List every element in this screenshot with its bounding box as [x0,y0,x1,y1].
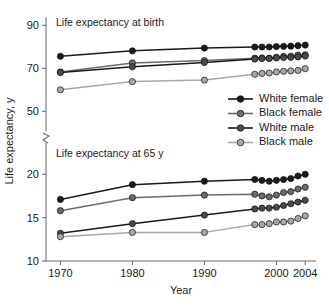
data-point [129,64,135,70]
legend-marker [237,139,244,146]
data-point [252,221,258,227]
data-point [57,87,63,93]
data-point [302,184,308,190]
data-point [201,229,207,235]
y-axis-title: Life expectancy, y [3,97,15,185]
data-point [129,221,135,227]
y-tick-label-at65-0: 10 [27,255,39,267]
x-tick-label-3: 2000 [264,267,288,279]
data-point [57,196,63,202]
data-point [201,192,207,198]
x-tick-label-0: 1970 [48,267,72,279]
data-point [201,45,207,51]
data-point [281,202,287,208]
panel-series-at65 [57,171,308,240]
data-point [266,205,272,211]
data-point [252,176,258,182]
data-point [266,194,272,200]
legend: White femaleBlack femaleWhite maleBlack … [228,92,323,148]
y-tick-label-at65-2: 20 [27,168,39,180]
y-tick-label-birth-2: 90 [27,19,39,31]
series-at65-black-male [57,213,308,240]
data-point [295,199,301,205]
data-point [288,189,294,195]
series-at65-white-male [57,197,308,236]
data-point [302,53,308,59]
x-tick-label-4: 2004 [293,267,317,279]
data-point [266,70,272,76]
data-point [252,206,258,212]
legend-marker [237,110,244,117]
data-point [57,208,63,214]
legend-marker [237,96,244,103]
data-point [252,71,258,77]
data-point [129,79,135,85]
legend-label: White male [259,121,314,133]
data-point [259,177,265,183]
data-point [302,42,308,48]
data-point [281,43,287,49]
data-point [273,192,279,198]
data-point [288,176,294,182]
data-point [129,229,135,235]
chart-canvas: 50709010152019701980199020002004YearLife… [0,0,329,306]
data-point [281,68,287,74]
data-point [281,189,287,195]
data-point [288,54,294,60]
data-point [201,77,207,83]
data-point [201,178,207,184]
data-point [266,44,272,50]
data-point [281,54,287,60]
legend-item-black-male: Black male [228,135,313,147]
legend-item-black-female: Black female [228,106,322,118]
data-point [266,221,272,227]
data-point [273,204,279,210]
data-point [281,219,287,225]
data-point [129,195,135,201]
legend-label: Black male [259,135,313,147]
data-point [273,55,279,61]
data-point [129,182,135,188]
data-point [252,56,258,62]
legend-item-white-female: White female [228,92,323,104]
data-point [288,68,294,74]
data-point [295,67,301,73]
data-point [295,215,301,221]
data-point [266,55,272,61]
data-point [281,176,287,182]
data-point [252,44,258,50]
data-point [201,212,207,218]
data-point [273,219,279,225]
data-point [259,70,265,76]
data-point [295,54,301,60]
data-point [273,43,279,49]
data-point [295,186,301,192]
data-point [302,171,308,177]
data-point [129,48,135,54]
data-point [259,44,265,50]
legend-item-white-male: White male [228,121,314,133]
x-tick-label-2: 1990 [192,267,216,279]
data-point [252,191,258,197]
data-point [288,201,294,207]
data-point [273,69,279,75]
x-tick-label-1: 1980 [120,267,144,279]
y-tick-label-at65-1: 15 [27,212,39,224]
panel-series-birth [57,42,308,93]
data-point [57,234,63,240]
data-point [259,221,265,227]
data-point [288,43,294,49]
panel-title-at65: Life expectancy at 65 y [56,147,164,159]
data-point [259,205,265,211]
data-point [288,218,294,224]
data-point [201,59,207,65]
data-point [302,213,308,219]
panel-title-birth: Life expectancy at birth [56,16,164,28]
legend-marker [237,125,244,132]
legend-label: Black female [259,106,322,118]
data-point [302,197,308,203]
data-point [273,177,279,183]
data-point [295,43,301,49]
life-expectancy-chart: 50709010152019701980199020002004YearLife… [0,0,329,306]
y-tick-label-birth-0: 50 [27,105,39,117]
